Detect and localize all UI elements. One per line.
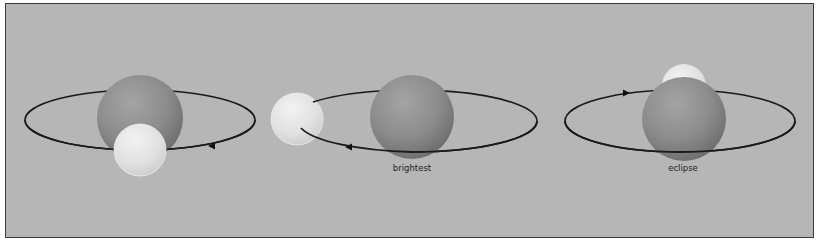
binary-star-diagram xyxy=(0,0,820,247)
panel-3 xyxy=(565,64,795,161)
large-star xyxy=(370,75,454,159)
label-eclipse: eclipse xyxy=(668,163,698,173)
orbit-arrow-icon xyxy=(623,90,630,97)
large-star xyxy=(642,77,726,161)
orbit-arrow-icon xyxy=(345,144,352,151)
label-brightest: brightest xyxy=(393,163,431,173)
panel-1 xyxy=(25,75,255,176)
panel-2 xyxy=(271,75,537,159)
small-star xyxy=(114,124,166,176)
